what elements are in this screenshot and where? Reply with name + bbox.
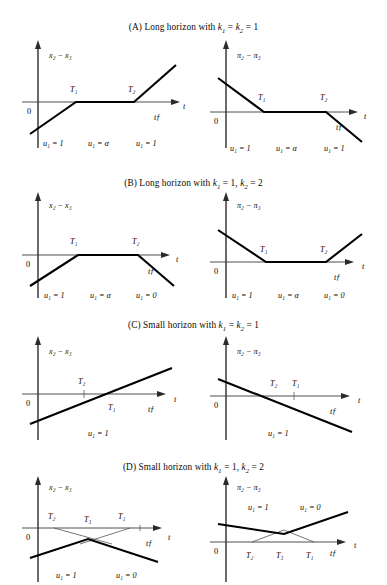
panel-c-text: Small horizon with [143,320,216,330]
xlabel-final-c-right: tƒ [330,407,336,416]
control-label-d-left-2: u₁ = 0 [116,571,137,580]
plot-d-left: x₂ − x₃ 0 T₂ T₃ T₁ tƒ t u₁ = 1 u₁ = 0 [8,476,193,584]
panel-d-eq1: = 1, [224,462,239,472]
control-label-c-right-1: u₁ = 1 [268,429,289,438]
switch-label-a-left-t2: T₂ [128,85,136,94]
switch-label-d-left-t1: T₁ [118,512,126,521]
xlabel-final-b-right: tƒ [334,273,340,282]
panel-title-a: (A) Long horizon with k1 = k2 = 1 [0,22,387,34]
switch-label-b-left-t2: T₂ [132,237,140,246]
panel-c-k1-sub: 1 [223,325,226,332]
origin-a-left: 0 [27,107,31,116]
control-label-a-left-2: u₁ = α [88,139,110,148]
control-label-b-right-1: u₁ = 1 [232,291,253,300]
panel-c-k2-sub: 2 [241,325,244,332]
switch-label-d-right-t1: T₁ [306,551,314,560]
control-label-a-right-2: u₁ = α [276,144,298,153]
switch-label-c-right-t1: T₁ [292,379,300,388]
xlabel-final-d-right: tƒ [330,549,336,558]
control-label-a-left-3: u₁ = 1 [136,139,157,148]
plot-c-left: x₂ − x₃ 0 T₂ T₁ tƒ t u₁ = 1 [8,332,193,444]
plot-d-right: π₂ − π₃ 0 u₁ = 1 u₁ = 0 T₂ T₃ T₁ tƒ t [196,476,381,584]
ylabel-c-right: π₂ − π₃ [237,347,261,356]
plot-b-left: x₂ − x₃ 0 T₁ T₂ tƒ t u₁ = 1 u₁ = α u₁ = … [8,190,193,302]
xlabel-final-a-right: tƒ [336,123,342,132]
switch-label-a-right-t2: T₂ [320,93,328,102]
plot-a-right: π₂ − π₃ 0 T₁ T₂ tƒ t u₁ = 1 u₁ = α u₁ = … [196,36,381,154]
plot-b-right: π₂ − π₃ 0 T₁ T₂ tƒ t u₁ = 1 u₁ = α u₁ = … [196,190,381,302]
xlabel-b-right: t [362,262,365,271]
panel-c-eq2: = 1 [247,320,260,330]
plot-c-right: π₂ − π₃ 0 T₂ T₁ tƒ t u₁ = 1 [196,332,381,444]
switch-label-d-left-t2: T₂ [48,512,56,521]
switch-label-b-right-t2: T₂ [320,245,328,254]
xlabel-a-right: t [364,112,367,121]
panel-a-k2-sub: 2 [240,27,243,34]
ylabel-b-right: π₂ − π₃ [237,201,261,210]
panel-b-k1-sub: 1 [217,183,220,190]
origin-d-right: 0 [214,547,218,556]
panel-b-text: Long horizon with [139,178,210,188]
control-label-a-left-1: u₁ = 1 [43,139,64,148]
xlabel-final-a-left: tƒ [154,113,160,122]
control-label-a-right-1: u₁ = 1 [230,144,251,153]
control-label-b-left-3: u₁ = 0 [136,291,157,300]
panel-a-eq1: = [228,22,233,32]
origin-c-left: 0 [26,399,30,408]
origin-c-right: 0 [214,401,218,410]
switch-label-d-right-t3: T₃ [276,551,284,560]
control-label-b-left-1: u₁ = 1 [44,291,65,300]
switch-label-d-left-t3: T₃ [84,515,92,524]
ylabel-a-right: π₂ − π₃ [237,51,261,60]
switch-label-c-right-t2: T₂ [270,379,278,388]
control-label-c-left-1: u₁ = 1 [88,429,109,438]
control-label-a-right-3: u₁ = 1 [324,144,345,153]
ylabel-d-left: x₂ − x₃ [48,483,72,492]
origin-d-left: 0 [26,533,30,542]
switch-label-c-left-t2: T₂ [78,377,86,386]
control-label-b-right-3: u₁ = 0 [324,291,345,300]
panel-a-k1-sub: 1 [222,27,225,34]
panel-title-b: (B) Long horizon with k1 = 1, k2 = 2 [0,178,387,190]
ylabel-a-left: x₂ − x₃ [48,51,72,60]
panel-a-eq2: = 1 [246,22,259,32]
control-label-d-right-2: u₁ = 0 [300,503,321,512]
panel-d-text: Small horizon with [139,462,212,472]
xlabel-c-left: t [174,395,177,404]
xlabel-b-left: t [176,255,179,264]
switch-label-a-left-t1: T₁ [70,85,78,94]
control-label-d-left-1: u₁ = 1 [56,571,77,580]
switch-label-b-right-t1: T₁ [260,245,268,254]
xlabel-final-c-left: tƒ [148,405,154,414]
switch-label-a-right-t1: T₁ [258,93,266,102]
panel-b-eq1: = 1, [223,178,238,188]
panel-b-letter: (B) [124,178,137,188]
panel-c-letter: (C) [128,320,141,330]
panel-title-d: (D) Small horizon with k1 = 1, k2 = 2 [0,462,387,474]
panel-title-c: (C) Small horizon with k1 = k2 = 1 [0,320,387,332]
xlabel-d-left: t [168,533,171,542]
origin-a-right: 0 [214,117,218,126]
panel-a-text: Long horizon with [144,22,215,32]
switch-label-d-right-t2: T₂ [246,551,254,560]
panel-a-letter: (A) [129,22,142,32]
xlabel-d-right: t [354,541,357,550]
panel-b-eq2: = 2 [250,178,263,188]
control-label-b-left-2: u₁ = α [90,291,112,300]
ylabel-c-left: x₂ − x₃ [48,347,72,356]
panel-c-eq1: = [229,320,234,330]
origin-b-right: 0 [214,267,218,276]
figure-container: (A) Long horizon with k1 = k2 = 1 x₂ − x… [0,0,387,585]
ylabel-b-left: x₂ − x₃ [48,201,72,210]
xlabel-final-d-left: tƒ [146,539,152,548]
switch-label-b-left-t1: T₁ [70,237,78,246]
switch-label-c-left-t1: T₁ [108,403,116,412]
control-label-b-right-2: u₁ = α [278,291,300,300]
panel-b-k2-sub: 2 [244,183,247,190]
xlabel-final-b-left: tƒ [148,267,154,276]
ylabel-d-right: π₂ − π₃ [237,483,261,492]
panel-d-k2-sub: 2 [246,467,249,474]
panel-d-letter: (D) [123,462,136,472]
xlabel-c-right: t [358,396,361,405]
panel-d-k1-sub: 1 [218,467,221,474]
